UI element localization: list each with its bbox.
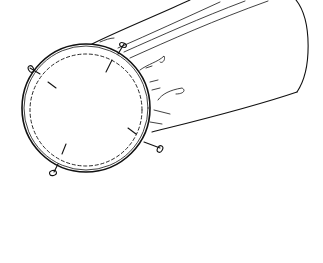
tuning-lug — [118, 42, 127, 54]
drum-shell — [92, 0, 308, 132]
tuning-lug — [49, 164, 58, 176]
drum-head — [22, 44, 150, 172]
drum-drawing — [0, 0, 323, 263]
tuning-lug — [144, 142, 164, 153]
